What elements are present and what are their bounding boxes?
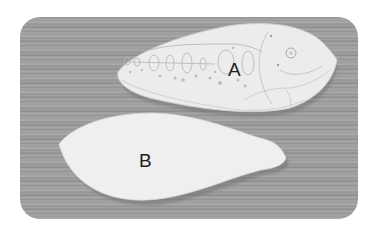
photo-scene: [20, 17, 358, 219]
photo-frame: A B: [20, 17, 358, 219]
label-a: A: [228, 60, 241, 79]
label-b: B: [139, 151, 152, 170]
fish-b: [59, 113, 286, 200]
